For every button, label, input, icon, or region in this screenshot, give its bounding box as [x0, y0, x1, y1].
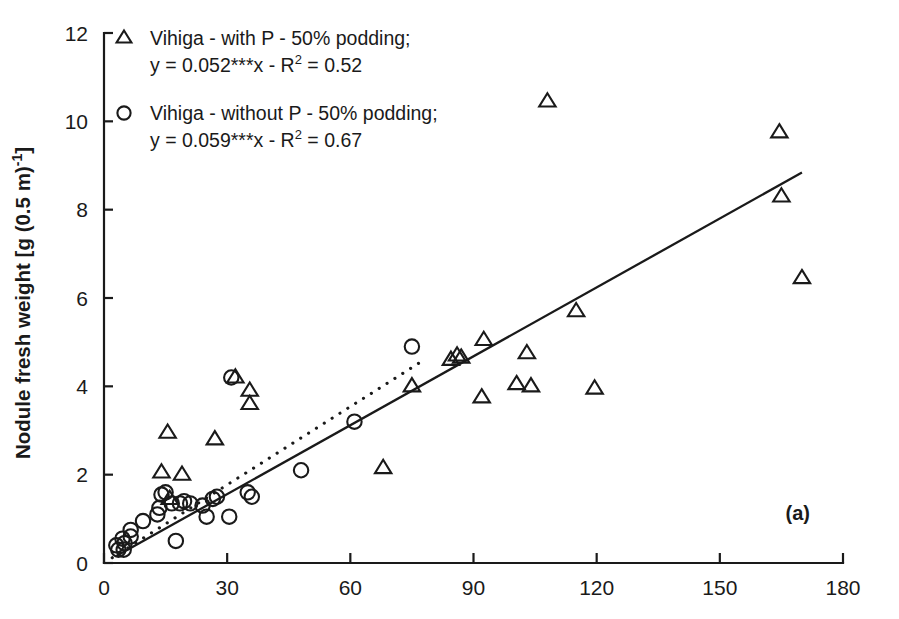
y-tick-label: 6 [76, 287, 88, 310]
y-tick-label: 10 [65, 110, 88, 133]
x-tick-label: 180 [825, 576, 860, 599]
y-tick-label: 2 [76, 463, 88, 486]
legend-label: Vihiga - with P - 50% podding; [150, 27, 411, 49]
data-point-triangle [539, 93, 555, 106]
data-point-triangle [508, 376, 524, 389]
legend-equation: y = 0.059***x - R2 = 0.67 [150, 127, 362, 151]
data-point-triangle [476, 332, 492, 345]
data-point-triangle [375, 460, 391, 473]
data-point-triangle [404, 378, 420, 391]
x-tick-label: 60 [339, 576, 362, 599]
data-point-circle [294, 463, 308, 477]
legend-marker-triangle [117, 31, 132, 43]
legend-label: Vihiga - without P - 50% podding; [150, 102, 438, 124]
y-tick-label: 12 [65, 22, 88, 45]
data-point-triangle [207, 431, 223, 444]
y-tick-label: 0 [76, 552, 88, 575]
legend-equation: y = 0.052***x - R2 = 0.52 [150, 52, 362, 76]
scatter-plot: 0246810120306090120150180Nodule fresh we… [0, 0, 899, 619]
x-tick-label: 0 [98, 576, 110, 599]
data-point-triangle [153, 464, 169, 477]
data-point-triangle [794, 270, 810, 283]
x-tick-label: 120 [579, 576, 614, 599]
data-point-triangle [586, 380, 602, 393]
y-tick-label: 4 [76, 375, 88, 398]
data-point-triangle [568, 303, 584, 316]
x-tick-label: 30 [215, 576, 238, 599]
data-point-circle [169, 534, 183, 548]
data-point-circle [222, 509, 236, 523]
data-point-circle [245, 490, 259, 504]
y-tick-label: 8 [76, 198, 88, 221]
x-tick-label: 150 [702, 576, 737, 599]
data-point-triangle [159, 424, 175, 437]
regression-line-dotted [112, 362, 420, 557]
data-point-circle [405, 339, 419, 353]
x-tick-label: 90 [462, 576, 485, 599]
data-point-triangle [474, 389, 490, 402]
data-point-triangle [771, 124, 787, 137]
data-point-triangle [523, 378, 539, 391]
panel-label: (a) [786, 502, 810, 524]
data-point-circle [240, 485, 254, 499]
legend-marker-circle [117, 106, 130, 119]
y-axis-label: Nodule fresh weight [g (0.5 m)-1] [9, 147, 34, 459]
data-point-triangle [773, 188, 789, 201]
data-point-triangle [519, 345, 535, 358]
data-point-triangle [242, 396, 258, 409]
data-point-triangle [174, 466, 190, 479]
figure-panel: 0246810120306090120150180Nodule fresh we… [0, 0, 899, 619]
data-point-circle [136, 514, 150, 528]
